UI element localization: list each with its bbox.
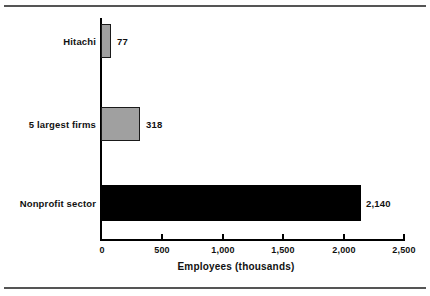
bar-nonprofit-sector <box>101 185 361 221</box>
bar-5-largest-firms <box>101 107 140 141</box>
bar-value-5-largest-firms: 318 <box>146 119 162 130</box>
page-rule-bottom <box>4 287 426 289</box>
x-axis-title: Employees (thousands) <box>0 261 430 272</box>
bar-chart-figure: 0 500 1,000 1,500 2,000 2,500 Hitachi 77… <box>0 0 430 296</box>
x-tick-2500 <box>403 234 405 240</box>
x-tick-1000 <box>222 234 224 240</box>
x-tick-label-1000: 1,000 <box>211 245 235 255</box>
bar-label-5-largest-firms: 5 largest firms <box>29 119 96 130</box>
x-tick-label-0: 0 <box>99 245 104 255</box>
x-tick-label-2500: 2,500 <box>392 245 416 255</box>
bar-hitachi <box>101 24 111 58</box>
bar-label-hitachi: Hitachi <box>63 36 96 47</box>
bar-value-hitachi: 77 <box>117 36 128 47</box>
x-tick-2000 <box>343 234 345 240</box>
bar-value-nonprofit-sector: 2,140 <box>366 198 391 209</box>
x-tick-500 <box>161 234 163 240</box>
page-rule-top <box>4 5 426 7</box>
x-tick-label-2000: 2,000 <box>332 245 356 255</box>
x-axis-line <box>100 239 405 241</box>
x-tick-1500 <box>282 234 284 240</box>
x-tick-label-1500: 1,500 <box>271 245 295 255</box>
x-tick-0 <box>100 234 102 240</box>
x-tick-label-500: 500 <box>154 245 170 255</box>
bar-label-nonprofit-sector: Nonprofit sector <box>20 198 96 209</box>
